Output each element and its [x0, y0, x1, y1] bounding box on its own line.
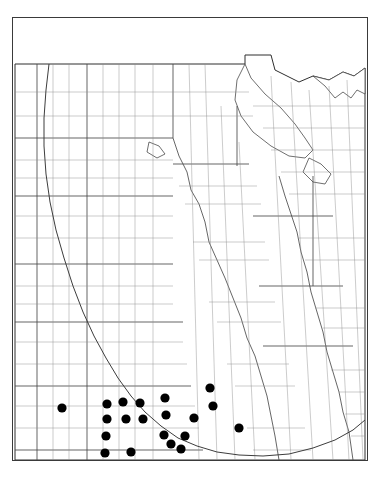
- occurrence-dot: [138, 414, 147, 423]
- occurrence-dot: [160, 393, 169, 402]
- great-lakes: [147, 64, 365, 184]
- occurrence-dot: [208, 401, 217, 410]
- occurrence-dot: [166, 439, 175, 448]
- occurrence-dot: [180, 431, 189, 440]
- occurrence-dot: [135, 398, 144, 407]
- region-outline: [15, 55, 365, 460]
- occurrence-dot: [57, 403, 66, 412]
- occurrence-dot: [126, 447, 135, 456]
- occurrence-dot: [161, 410, 170, 419]
- occurrence-dot: [121, 414, 130, 423]
- occurrence-dot: [205, 383, 214, 392]
- occurrence-dot: [234, 423, 243, 432]
- occurrence-dot: [176, 444, 185, 453]
- occurrence-dot: [118, 397, 127, 406]
- distribution-map: [13, 46, 367, 460]
- occurrence-dot: [102, 399, 111, 408]
- occurrence-dot: [101, 431, 110, 440]
- occurrence-dot: [102, 414, 111, 423]
- occurrence-dot: [189, 413, 198, 422]
- map-canvas: [13, 46, 367, 460]
- occurrence-dot: [100, 448, 109, 457]
- occurrence-dot: [159, 430, 168, 439]
